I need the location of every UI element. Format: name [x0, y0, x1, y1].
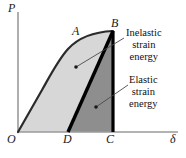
load-deflection-figure: P δ O A B C D Inelastic strain energy El…	[0, 0, 186, 158]
point-label-o: O	[7, 133, 16, 145]
elastic-leader-dot	[94, 105, 98, 109]
callout-elastic-line3: energy	[129, 98, 158, 110]
callout-inelastic-strain-energy: Inelastic strain energy	[126, 27, 162, 62]
callout-inelastic-line1: Inelastic	[126, 27, 162, 39]
callout-elastic-line2: strain	[129, 86, 158, 98]
callout-inelastic-line2: strain	[126, 39, 162, 51]
point-label-a: A	[72, 25, 79, 37]
point-label-d: D	[63, 133, 72, 145]
y-axis-label: P	[8, 2, 15, 14]
figure-graphics	[0, 0, 186, 158]
x-axis-label: δ	[170, 133, 176, 145]
callout-inelastic-line3: energy	[126, 51, 162, 63]
point-label-b: B	[111, 17, 118, 29]
callout-elastic-strain-energy: Elastic strain energy	[129, 74, 158, 109]
inelastic-leader-dot	[74, 65, 78, 69]
callout-elastic-line1: Elastic	[129, 74, 158, 86]
point-label-c: C	[106, 133, 114, 145]
